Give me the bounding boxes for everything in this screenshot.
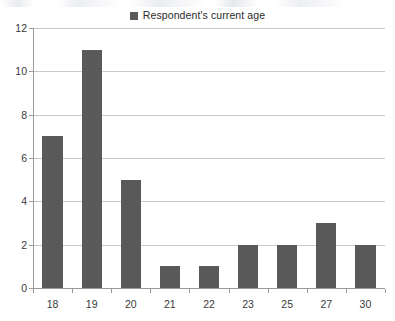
bar — [199, 266, 219, 288]
legend-label: Respondent's current age — [143, 10, 265, 21]
x-axis-tick-marks — [33, 289, 385, 294]
bar-cell — [268, 28, 307, 288]
x-axis-tick-mark — [33, 289, 34, 293]
y-axis-tick-label: 12 — [15, 23, 27, 34]
y-axis-tick-label: 8 — [21, 109, 27, 120]
y-axis-tick-mark — [29, 115, 34, 116]
bar — [238, 245, 258, 288]
y-axis-tick-label: 6 — [21, 153, 27, 164]
y-axis-tick-label: 4 — [21, 196, 27, 207]
y-axis-tick-mark — [29, 158, 34, 159]
bar-chart: Respondent's current age 121086420 18192… — [0, 0, 395, 321]
x-axis-tick-label: 18 — [33, 296, 72, 312]
y-axis-tick-mark — [29, 28, 34, 29]
bar-cell — [307, 28, 346, 288]
y-axis-tick-labels: 121086420 — [0, 0, 27, 321]
x-axis-tick-labels: 181920212223252730 — [33, 296, 385, 312]
bar-cell — [189, 28, 228, 288]
bar — [160, 266, 180, 288]
x-axis-tick-mark — [268, 289, 269, 293]
x-axis-tick-label: 19 — [72, 296, 111, 312]
x-axis-tick-mark — [385, 289, 386, 293]
bar — [121, 180, 141, 288]
y-axis-tick-mark — [29, 288, 34, 289]
y-axis-tick-label: 10 — [15, 66, 27, 77]
bar-cell — [150, 28, 189, 288]
legend-entry-respondents-current-age: Respondent's current age — [130, 10, 265, 21]
y-axis-tick-label: 2 — [21, 239, 27, 250]
legend-swatch-icon — [130, 12, 138, 20]
x-axis-tick-label: 30 — [346, 296, 385, 312]
bar-cell — [33, 28, 72, 288]
bar-cell — [72, 28, 111, 288]
y-axis-tick-mark — [29, 71, 34, 72]
y-axis-tick-mark — [29, 245, 34, 246]
x-axis-tick-label: 25 — [268, 296, 307, 312]
x-axis-tick-mark — [150, 289, 151, 293]
x-axis-tick-label: 27 — [307, 296, 346, 312]
x-axis-tick-mark — [307, 289, 308, 293]
x-axis-tick-mark — [72, 289, 73, 293]
x-axis-tick-mark — [189, 289, 190, 293]
bar — [355, 245, 375, 288]
bar — [277, 245, 297, 288]
bar-cell — [111, 28, 150, 288]
chart-legend: Respondent's current age — [0, 7, 395, 24]
bar-series-respondents-current-age — [33, 28, 385, 288]
bar — [42, 136, 62, 288]
x-axis-tick-label: 23 — [229, 296, 268, 312]
bar — [316, 223, 336, 288]
x-axis-tick-label: 21 — [150, 296, 189, 312]
y-axis-tick-label: 0 — [21, 283, 27, 294]
y-axis-tick-mark — [29, 201, 34, 202]
x-axis-tick-mark — [346, 289, 347, 293]
x-axis-tick-mark — [229, 289, 230, 293]
x-axis-tick-label: 22 — [189, 296, 228, 312]
x-axis-tick-mark — [111, 289, 112, 293]
bar — [82, 50, 102, 288]
x-axis-tick-label: 20 — [111, 296, 150, 312]
bar-cell — [346, 28, 385, 288]
bar-cell — [229, 28, 268, 288]
